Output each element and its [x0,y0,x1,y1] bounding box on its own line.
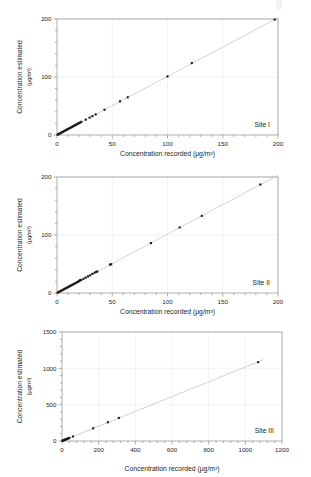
data-point [179,226,181,228]
plot-area: 0501001502000100200Concentration estimat… [16,15,284,158]
y-axis-unit-text: (μg/m³) [26,378,32,396]
scatter-plot-site-iii: 020040060080010001200050010001500Concent… [0,320,311,477]
y-axis-tick-label: 500 [46,401,57,408]
data-point [85,277,87,279]
plot-area: 020040060080010001200050010001500Concent… [16,328,289,473]
x-axis-tick-label: 1000 [238,446,252,453]
data-point [85,119,87,121]
y-axis-tick-label: 0 [53,437,57,444]
chart-panel-site-ii: 0501001502000100200Concentration estimat… [0,162,311,320]
x-axis-title-text: Concentration recorded (μg/m³) [120,308,215,316]
data-point [91,273,93,275]
y-axis-tick-label: 200 [41,173,52,180]
x-axis-tick-label: 0 [60,446,64,453]
x-axis-tick-label: 100 [162,298,173,305]
data-point [107,421,109,423]
data-point [118,417,120,419]
x-axis-tick-label: 200 [94,446,105,453]
data-point [87,275,89,277]
chart-panel-site-iii: 020040060080010001200050010001500Concent… [0,320,311,477]
data-point [150,242,152,244]
site-annotation: Site I [255,121,271,128]
y-axis-tick-label: 100 [41,231,52,238]
y-axis-title: Concentration estimated [16,349,23,423]
x-axis-tick-label: 600 [167,446,178,453]
x-axis: 050100150200 [55,293,283,305]
figure-scatter-panels: 0501001502000100200Concentration estimat… [0,0,311,477]
x-axis-tick-label: 100 [162,140,173,147]
data-point [259,183,261,185]
x-axis-title-text: Concentration recorded (μg/m³) [125,465,220,473]
y-axis-title-text: Concentration estimated [16,40,23,114]
y-axis-tick-label: 1000 [43,365,57,372]
x-axis-tick-label: 400 [130,446,141,453]
y-axis: 050010001500 [43,328,62,444]
data-point [201,215,203,217]
y-axis: 0100200 [41,173,57,296]
y-axis-tick-label: 0 [48,289,52,296]
data-point [96,270,98,272]
data-point [95,113,97,115]
x-axis-tick-label: 50 [109,298,116,305]
x-axis: 020040060080010001200 [60,441,289,453]
x-axis-tick-label: 150 [218,298,229,305]
y-axis-unit-text: (μg/m³) [26,226,32,244]
scatter-plot-site-i: 0501001502000100200Concentration estimat… [0,4,311,162]
data-point [166,75,168,77]
x-axis-tick-label: 200 [273,298,284,305]
data-point [80,279,82,281]
scatter-plot-site-ii: 0501001502000100200Concentration estimat… [0,162,311,320]
y-axis-title: Concentration estimated [16,198,23,272]
x-axis-tick-label: 0 [55,140,59,147]
data-point [92,427,94,429]
y-axis-unit: (μg/m³) [26,378,32,396]
y-axis-unit: (μg/m³) [26,226,32,244]
data-point [274,19,276,21]
data-point [80,121,82,123]
x-axis-tick-label: 150 [218,140,229,147]
data-point [257,361,259,363]
data-point [119,100,121,102]
x-axis-title-text: Concentration recorded (μg/m³) [120,150,215,158]
data-point [89,117,91,119]
y-axis-title-text: Concentration estimated [16,349,23,423]
y-axis-tick-label: 200 [41,15,52,22]
x-axis-tick-label: 800 [204,446,215,453]
data-point [103,109,105,111]
x-axis-tick-label: 0 [55,298,59,305]
y-axis-title: Concentration estimated [16,40,23,114]
y-axis-tick-label: 0 [48,131,52,138]
y-axis-title-text: Concentration estimated [16,198,23,272]
y-axis-tick-label: 100 [41,73,52,80]
plot-area: 0501001502000100200Concentration estimat… [16,173,284,316]
x-axis-tick-label: 50 [109,140,116,147]
data-point [82,278,84,280]
data-point [191,62,193,64]
x-axis-tick-label: 200 [273,140,284,147]
x-axis: 050100150200 [55,135,283,147]
data-point [68,437,70,439]
y-axis-tick-label: 1500 [43,328,57,335]
site-annotation: Site III [255,427,274,434]
site-annotation: Site II [253,279,270,286]
y-axis: 0100200 [41,15,57,138]
data-point [91,115,93,117]
data-point [89,274,91,276]
y-axis-unit: (μg/m³) [26,68,32,86]
chart-panel-site-i: 0501001502000100200Concentration estimat… [0,4,311,162]
x-axis-tick-label: 1200 [275,446,289,453]
y-axis-unit-text: (μg/m³) [26,68,32,86]
data-point [127,96,129,98]
data-point [110,263,112,265]
data-point [72,435,74,437]
